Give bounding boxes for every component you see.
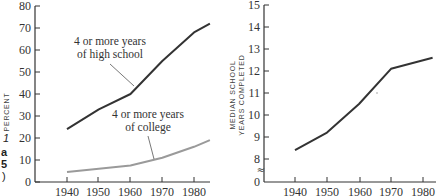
right-y-tick-15: 15 [248,0,260,12]
right-x-tick-1980: 1980 [411,185,435,196]
left-x-tick-1940: 1940 [55,185,79,196]
annotation-college-leader [148,136,154,159]
left-y-tick-0: 0 [25,175,31,189]
fragment-2: a [1,146,8,158]
left-x-tick-1950: 1950 [86,185,110,196]
left-y-tick-70: 70 [19,21,31,35]
left-x-tick-1970: 1970 [150,185,174,196]
left-x-ticks: 1940 1950 1960 1970 1980 [55,177,206,196]
annotation-college-line1: 4 or more years [112,108,184,121]
left-chart: PERCENT 0 10 20 30 40 50 60 70 80 [3,0,210,196]
right-x-tick-1970: 1970 [379,185,403,196]
right-y-axis-title-line2: YEARS COMPLETED [238,54,245,135]
annotation-hs-leader [110,64,134,86]
left-y-tick-30: 30 [19,109,31,123]
right-y-tick-11: 11 [248,86,260,100]
right-y-tick-12: 12 [248,64,260,78]
right-x-ticks: 1940 1950 1960 1970 1980 [283,177,435,196]
right-y-tick-14: 14 [248,20,260,34]
right-y-tick-9: 9 [254,130,260,144]
annotation-hs-line2: of high school [77,48,143,61]
left-y-tick-60: 60 [19,43,31,57]
right-x-tick-1940: 1940 [283,185,307,196]
right-y-tick-13: 13 [248,42,260,56]
right-y-tick-10: 10 [248,108,260,122]
left-y-tick-10: 10 [19,153,31,167]
left-edge-fragments: 1 a 5 ) [1,132,9,182]
left-y-ticks: 0 10 20 30 40 50 60 70 80 [19,0,40,189]
annotation-college-line2: of college [125,121,171,134]
fragment-4: ) [2,170,6,182]
college-line [67,140,210,172]
left-x-tick-1960: 1960 [118,185,142,196]
fragment-1: 1 [3,132,9,144]
annotation-high-school: 4 or more years of high school [74,35,146,86]
right-y-tick-0: 0 [254,175,260,189]
scan-speck [376,92,377,93]
figure: 1 a 5 ) PERCENT 0 10 20 30 40 50 60 [0,0,436,196]
annotation-hs-line1: 4 or more years [74,35,146,48]
left-y-tick-50: 50 [19,65,31,79]
annotation-college: 4 or more years of college [112,108,184,159]
right-x-tick-1960: 1960 [348,185,372,196]
median-years-line [295,58,433,150]
left-y-tick-80: 80 [19,0,31,13]
right-chart: MEDIAN SCHOOL YEARS COMPLETED ≈ 0 8 9 10… [229,0,436,196]
left-y-tick-40: 40 [19,87,31,101]
right-y-axis-title-line1: MEDIAN SCHOOL [229,60,236,129]
left-y-axis-title: PERCENT [3,92,10,131]
right-x-tick-1950: 1950 [315,185,339,196]
fragment-3: 5 [1,158,7,170]
left-y-tick-20: 20 [19,131,31,145]
left-x-tick-1980: 1980 [182,185,206,196]
right-y-ticks: 0 8 9 10 11 12 13 14 15 [248,0,269,189]
right-y-tick-8: 8 [254,152,260,166]
